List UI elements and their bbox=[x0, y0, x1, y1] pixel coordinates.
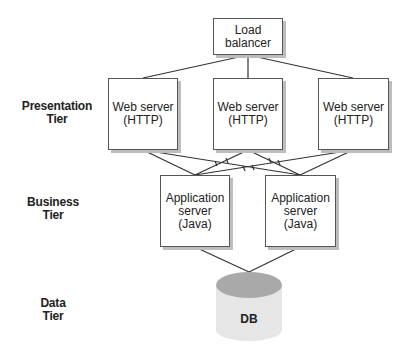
node-label-line: server bbox=[284, 205, 317, 218]
load-balancer-node: Load balancer bbox=[213, 18, 283, 55]
tier-label-business: Business Tier bbox=[8, 196, 98, 222]
node-label-line: (HTTP) bbox=[123, 114, 162, 127]
tier-label-line: Tier bbox=[43, 208, 64, 222]
tier-label-data: Data Tier bbox=[8, 297, 98, 323]
tier-label-presentation: Presentation Tier bbox=[12, 100, 102, 126]
tier-label-line: Data bbox=[40, 296, 65, 310]
web-server-node-2: Web server (HTTP) bbox=[213, 78, 283, 150]
node-label-line: (Java) bbox=[178, 218, 211, 231]
database-label: DB bbox=[216, 312, 282, 326]
node-label-line: (HTTP) bbox=[228, 114, 267, 127]
web-server-node-3: Web server (HTTP) bbox=[318, 78, 389, 150]
node-label-line: Load bbox=[235, 24, 262, 37]
database-cylinder-icon bbox=[216, 272, 282, 342]
node-label-line: server bbox=[178, 205, 211, 218]
tier-label-line: Business bbox=[27, 195, 79, 209]
app-server-node-2: Application server (Java) bbox=[265, 175, 336, 247]
node-label-line: balancer bbox=[225, 37, 271, 50]
app-server-node-1: Application server (Java) bbox=[160, 175, 230, 247]
tier-label-line: Presentation bbox=[22, 99, 92, 113]
web-server-node-1: Web server (HTTP) bbox=[108, 78, 178, 150]
tier-label-line: Tier bbox=[47, 112, 68, 126]
tier-label-line: Tier bbox=[43, 309, 64, 323]
node-label-line: (HTTP) bbox=[334, 114, 373, 127]
node-label-line: Application bbox=[271, 192, 330, 205]
node-label-line: Application bbox=[166, 192, 225, 205]
node-label-line: (Java) bbox=[284, 218, 317, 231]
